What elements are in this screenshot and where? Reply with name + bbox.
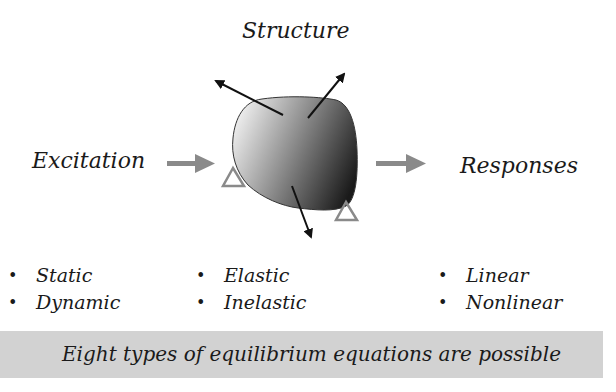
structure-types-list: • Elastic • Inelastic: [196, 262, 307, 316]
structure-type-inelastic: Inelastic: [224, 291, 307, 313]
flow-arrow-out-icon: [376, 154, 426, 173]
summary-text: Eight types of equilibrium equations are…: [62, 342, 561, 366]
list-item: • Elastic: [196, 262, 307, 289]
excitation-types-list: • Static • Dynamic: [8, 262, 120, 316]
excitation-type-static: Static: [36, 264, 92, 286]
response-type-linear: Linear: [466, 264, 529, 286]
bullet-icon: •: [438, 262, 447, 289]
summary-band: Eight types of equilibrium equations are…: [0, 331, 603, 378]
bullet-icon: •: [196, 262, 205, 289]
list-item: • Linear: [438, 262, 562, 289]
structure-type-elastic: Elastic: [224, 264, 289, 286]
flow-arrow-in-icon: [167, 154, 215, 173]
bullet-icon: •: [8, 262, 17, 289]
list-item: • Inelastic: [196, 289, 307, 316]
bullet-icon: •: [196, 289, 205, 316]
list-item: • Dynamic: [8, 289, 120, 316]
response-types-list: • Linear • Nonlinear: [438, 262, 562, 316]
list-item: • Static: [8, 262, 120, 289]
excitation-type-dynamic: Dynamic: [36, 291, 120, 313]
list-item: • Nonlinear: [438, 289, 562, 316]
bullet-icon: •: [8, 289, 17, 316]
response-type-nonlinear: Nonlinear: [466, 291, 562, 313]
bullet-icon: •: [438, 289, 447, 316]
